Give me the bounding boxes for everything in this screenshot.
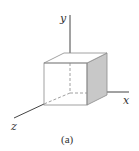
z-axis-hidden [44,93,70,104]
y-axis-label: y [59,12,67,25]
z-axis [14,104,44,118]
x-axis-label: x [123,94,130,107]
cube-front-face [44,63,87,105]
z-axis-label: z [10,120,17,133]
cube-axes-diagram: y x z (a) [0,0,139,151]
figure-caption: (a) [61,133,74,146]
